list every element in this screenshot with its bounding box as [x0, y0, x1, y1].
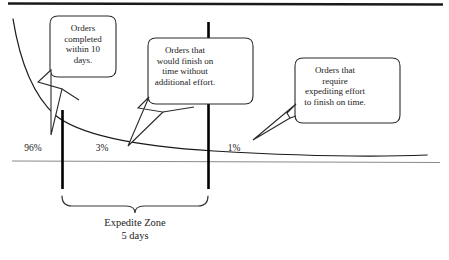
percent-label-96: 96%	[18, 143, 48, 154]
expedite-zone-brace	[62, 196, 208, 213]
percent-label-3: 3%	[90, 143, 114, 154]
callout-left-tail-edge	[62, 89, 79, 100]
top-border-rule	[8, 4, 443, 5]
callout-right-label: Orders that require expediting effort to…	[299, 65, 371, 107]
baseline-axis	[12, 161, 440, 163]
callout-right-tail	[253, 104, 296, 140]
callout-left-label: Orders completed within 10 days.	[56, 23, 110, 65]
callout-middle-tail-edge	[163, 107, 194, 112]
percent-label-1: 1%	[222, 143, 246, 154]
figure-container: Orders completed within 10 days. Orders …	[0, 0, 449, 260]
callout-middle-label: Orders that would finish on time without…	[152, 45, 218, 87]
expedite-zone-caption: Expedite Zone 5 days	[60, 216, 210, 242]
callout-left-tail	[38, 70, 62, 135]
